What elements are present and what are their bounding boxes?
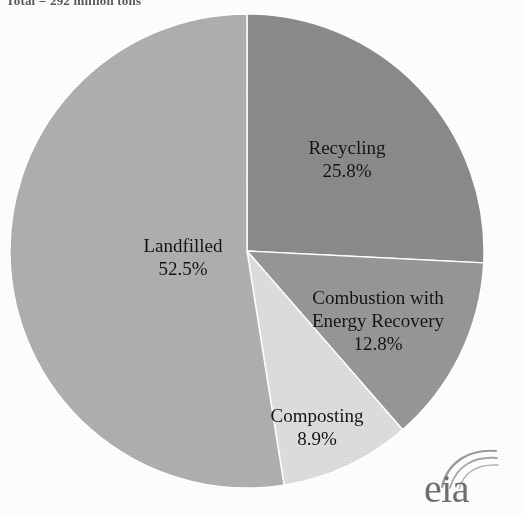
slice-value-composting: 8.9% <box>244 427 390 450</box>
slice-label-composting: Composting 8.9% <box>244 404 390 450</box>
slice-name-composting: Composting <box>244 404 390 427</box>
eia-logo: eia <box>420 447 508 511</box>
chart-title: Total = 292 million tons <box>6 0 141 9</box>
eia-logo-text: eia <box>424 469 469 509</box>
slice-name-recycling: Recycling <box>272 136 422 159</box>
slice-label-recycling: Recycling 25.8% <box>272 136 422 182</box>
slice-label-combustion: Combustion with Energy Recovery 12.8% <box>292 286 464 356</box>
slice-value-landfilled: 52.5% <box>112 257 254 280</box>
slice-value-combustion: 12.8% <box>292 332 464 355</box>
slice-value-recycling: 25.8% <box>272 159 422 182</box>
slice-name-combustion-line2: Energy Recovery <box>292 309 464 332</box>
slice-name-landfilled: Landfilled <box>112 234 254 257</box>
slice-name-combustion-line1: Combustion with <box>292 286 464 309</box>
slice-label-landfilled: Landfilled 52.5% <box>112 234 254 280</box>
